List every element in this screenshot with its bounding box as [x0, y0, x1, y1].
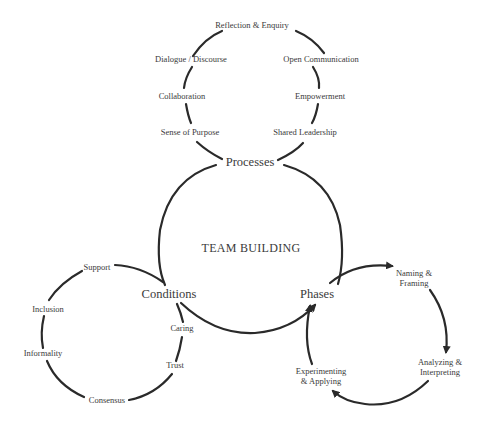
- arc-segment: [177, 304, 183, 322]
- arc-segment: [176, 337, 182, 361]
- condition-inclusion: Inclusion: [32, 304, 64, 314]
- team-building-circle: TEAM BUILDING: [159, 165, 342, 333]
- conditions-cycle: Support Inclusion Informality Consensus …: [24, 262, 195, 405]
- condition-trust: Trust: [166, 360, 184, 370]
- center-title: TEAM BUILDING: [202, 241, 301, 255]
- process-empowerment: Empowerment: [295, 91, 346, 101]
- phase-naming-line2: Framing: [400, 278, 430, 288]
- process-shared-leadership: Shared Leadership: [273, 127, 337, 137]
- arc-segment: [186, 104, 191, 123]
- arc-segment: [284, 165, 342, 284]
- condition-support: Support: [84, 262, 112, 272]
- arc-segment: [49, 271, 82, 300]
- arc-segment: [115, 265, 163, 282]
- arc-segment: [129, 374, 172, 400]
- phase-experimenting-line1: Experimenting: [296, 366, 347, 376]
- arc-segment: [42, 316, 44, 348]
- process-sense-of-purpose: Sense of Purpose: [161, 127, 220, 137]
- condition-consensus: Consensus: [89, 395, 125, 405]
- team-building-diagram: Reflection & Enquiry Open Communication …: [0, 0, 483, 424]
- arc-segment: [181, 303, 315, 333]
- phase-naming-line1: Naming &: [396, 268, 433, 278]
- condition-caring: Caring: [170, 323, 194, 333]
- arrow-to-analyzing: [430, 290, 447, 352]
- phase-analyzing-line2: Interpreting: [420, 367, 461, 377]
- process-open-communication: Open Communication: [283, 54, 359, 64]
- process-dialogue-discourse: Dialogue / Discourse: [155, 54, 227, 64]
- arc-segment: [193, 31, 222, 56]
- arc-segment: [159, 165, 216, 285]
- process-reflection-enquiry: Reflection & Enquiry: [215, 20, 289, 30]
- arc-segment: [47, 361, 84, 397]
- phase-experimenting-line2: & Applying: [301, 376, 342, 386]
- arc-segment: [313, 67, 319, 88]
- arc-segment: [184, 67, 192, 88]
- phase-analyzing-line1: Analyzing &: [418, 357, 463, 367]
- node-conditions: Conditions: [142, 287, 197, 301]
- arrow-to-experimenting: [333, 381, 428, 405]
- arc-segment: [296, 31, 324, 53]
- condition-informality: Informality: [24, 348, 63, 358]
- arc-segment: [278, 143, 303, 160]
- arc-segment: [197, 142, 222, 159]
- node-processes: Processes: [226, 155, 275, 169]
- process-collaboration: Collaboration: [159, 91, 206, 101]
- node-phases: Phases: [300, 287, 334, 301]
- arc-segment: [312, 104, 318, 123]
- processes-cycle: Reflection & Enquiry Open Communication …: [155, 20, 359, 160]
- arrow-to-phases: [307, 306, 312, 364]
